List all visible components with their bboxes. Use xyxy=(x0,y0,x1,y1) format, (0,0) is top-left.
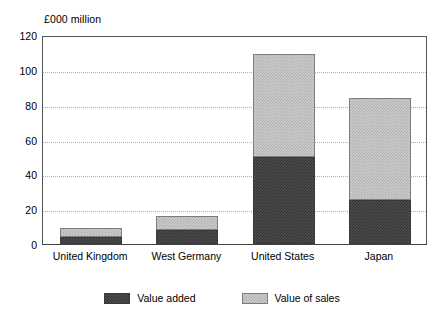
dark-hatch-swatch xyxy=(104,293,130,304)
bar-segment xyxy=(60,228,122,237)
x-axis-label: West Germany xyxy=(151,250,221,262)
legend-label: Value added xyxy=(137,292,195,304)
legend-item: Value of sales xyxy=(242,292,340,304)
x-axis-label: United Kingdom xyxy=(53,250,128,262)
y-axis-tick-label: 40 xyxy=(25,169,37,181)
bar-segment xyxy=(156,216,218,230)
bar-segment xyxy=(253,54,315,157)
bar-group xyxy=(60,35,122,244)
legend-label: Value of sales xyxy=(275,292,340,304)
bar-segment xyxy=(253,157,315,244)
plot-area xyxy=(42,36,427,245)
bar-segment xyxy=(156,230,218,244)
legend: Value addedValue of sales xyxy=(0,292,444,304)
y-axis-tick-label: 20 xyxy=(25,204,37,216)
y-axis-tick-label: 0 xyxy=(31,239,37,251)
y-axis-tick-label: 60 xyxy=(25,135,37,147)
y-axis-tick-label: 80 xyxy=(25,100,37,112)
x-axis-label: United States xyxy=(251,250,314,262)
bar-group xyxy=(253,35,315,244)
bar-segment xyxy=(349,98,411,201)
bar-group xyxy=(349,35,411,244)
bar-segment xyxy=(349,200,411,244)
bar-group xyxy=(156,35,218,244)
bar-chart: £000 million 020406080100120 United King… xyxy=(0,0,444,326)
legend-item: Value added xyxy=(104,292,195,304)
x-axis-label: Japan xyxy=(365,250,394,262)
bar-segment xyxy=(60,237,122,244)
light-hatch-swatch xyxy=(242,293,268,304)
y-axis-tick-label: 100 xyxy=(19,65,37,77)
y-axis-tick-label: 120 xyxy=(19,30,37,42)
y-axis-unit-label: £000 million xyxy=(44,13,101,25)
